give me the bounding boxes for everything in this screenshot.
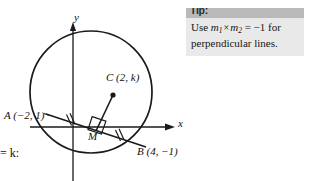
tip-header-bar: Tip: (186, 8, 304, 18)
point-m-label: M (88, 131, 97, 142)
tip-m1-subscript: 1 (219, 26, 223, 35)
tip-line1-eq: = −1 for (242, 21, 281, 33)
x-axis-arrowhead (165, 124, 175, 131)
tip-body: Use m1×m2 = −1 for perpendicular lines. (186, 18, 304, 56)
tip-line-1: Use m1×m2 = −1 for (191, 21, 299, 37)
tip-header-label: Tip: (190, 8, 208, 16)
point-a-label: A (−2, 1) (4, 110, 45, 121)
tip-callout: Tip: Use m1×m2 = −1 for perpendicular li… (186, 8, 304, 56)
figure-canvas: A (−2, 1) B (4, −1) C (2, k) M x y = k: … (0, 0, 325, 181)
point-b-label: B (4, −1) (137, 146, 178, 157)
point-c-label: C (2, k) (106, 72, 139, 83)
point-c-dot (110, 92, 115, 97)
tip-m1: m (211, 21, 219, 33)
y-axis-label: y (74, 12, 79, 23)
y-axis-arrowhead (70, 22, 76, 31)
tip-line1-pre: Use (191, 21, 211, 33)
y-axis (70, 22, 76, 181)
x-axis-label: x (178, 118, 183, 129)
clipped-equation-fragment: = k: (0, 148, 19, 159)
tip-line-2: perpendicular lines. (191, 37, 299, 51)
tip-m2: m (230, 21, 238, 33)
